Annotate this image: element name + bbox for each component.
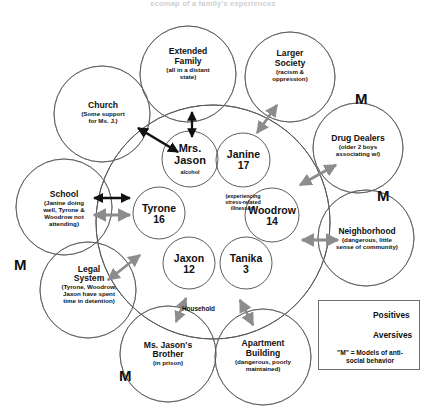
system-name: Ms. Jason'sBrother: [144, 341, 192, 359]
member-age: 12: [183, 264, 195, 275]
member-age: 14: [266, 216, 278, 227]
member-age: 17: [238, 160, 250, 171]
legend-marker-note: "M" = Models of anti-social behavior: [319, 349, 421, 365]
system-brother[interactable]: Ms. Jason'sBrother (in prison): [124, 332, 212, 376]
system-name: ExtendedFamily: [169, 47, 208, 65]
system-legal-system[interactable]: LegalSystem (Tyrone, Woodrow,Jaxon have …: [42, 254, 136, 316]
member-jaxon[interactable]: Jaxon 12: [164, 245, 214, 283]
system-neighborhood[interactable]: Neighborhood (dangerous, littlesense of …: [321, 218, 413, 260]
member-age: 3: [243, 264, 249, 275]
legend: Positives Aversives "M" = Models of anti…: [318, 300, 420, 370]
ecomap-diagram: ecomap of a family's experiences: [0, 0, 426, 419]
member-janine[interactable]: Janine 17: [219, 140, 268, 180]
system-extended-family[interactable]: ExtendedFamily (all in a distantstate): [148, 40, 228, 88]
member-woodrow[interactable]: Woodrow 14: [245, 197, 299, 235]
member-age: 16: [153, 214, 165, 225]
household-label: Household: [182, 305, 215, 312]
legend-aversives-label: Aversives: [373, 330, 412, 340]
system-note: (racism &oppression): [272, 69, 307, 83]
system-name: Neighborhood: [338, 227, 395, 236]
system-note: (all in a distantstate): [166, 67, 209, 81]
system-larger-society[interactable]: LargerSociety (racism &oppression): [253, 42, 327, 90]
system-note: (dangerous, poorlymaintained): [235, 359, 291, 373]
system-name: LargerSociety: [275, 49, 306, 67]
system-drug-dealers[interactable]: Drug Dealers (older 2 boysassociating w/…: [315, 125, 401, 167]
marker-m-drug-dealers: M: [355, 91, 368, 106]
system-name: Drug Dealers: [331, 134, 385, 143]
member-note: alcohol: [181, 169, 200, 175]
system-note: (in prison): [153, 360, 183, 367]
marker-m-brother: M: [119, 368, 132, 383]
member-mrs-jason[interactable]: Mrs.Jason alcohol: [165, 136, 215, 182]
system-note: (Some supportfor Ms. J.): [81, 111, 125, 125]
system-note: (Janine doingwell, Tyrone &Woodrow notat…: [43, 200, 85, 228]
legend-positives-label: Positives: [373, 310, 410, 320]
marker-m-legal-system: M: [14, 257, 27, 272]
system-church[interactable]: Church (Some supportfor Ms. J.): [60, 92, 146, 134]
system-note: (dangerous, littlesense of community): [336, 237, 398, 251]
system-name: LegalSystem: [74, 265, 105, 283]
system-school[interactable]: School (Janine doingwell, Tyrone &Woodro…: [20, 181, 108, 237]
system-apartment-building[interactable]: ApartmentBuilding (dangerous, poorlymain…: [217, 332, 309, 380]
system-name: ApartmentBuilding: [242, 339, 285, 357]
system-name: School: [50, 190, 79, 199]
arrow-apartment: [240, 300, 253, 325]
system-name: Church: [88, 101, 118, 110]
system-note: (Tyrone, Woodrow,Jaxon have spenttime in…: [61, 284, 116, 305]
system-note: (older 2 boysassociating w/): [336, 144, 380, 158]
member-tanika[interactable]: Tanika 3: [221, 245, 271, 283]
member-tyrone[interactable]: Tyrone 16: [134, 195, 184, 233]
member-name: Mrs.Jason: [174, 143, 206, 166]
marker-m-neighborhood: M: [377, 188, 390, 203]
